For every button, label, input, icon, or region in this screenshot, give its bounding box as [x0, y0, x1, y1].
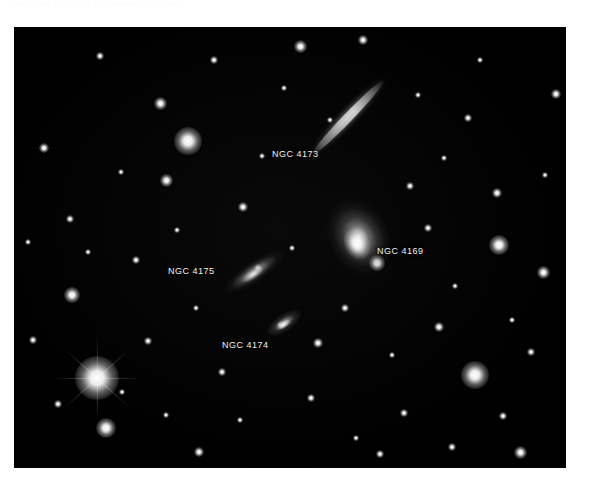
label-ngc-4173: NGC 4173: [272, 149, 319, 159]
label-ngc-4174: NGC 4174: [222, 340, 269, 350]
caption-text: NGC 4169 4173 4174 4175 Hickson 61 The B…: [15, 1, 182, 9]
astronomical-image-plate: NGC 4173 NGC 4169 NGC 4175 NGC 4174: [14, 27, 566, 468]
label-ngc-4169: NGC 4169: [377, 246, 424, 256]
caption-strip: NGC 4169 4173 4174 4175 Hickson 61 The B…: [0, 0, 590, 27]
label-ngc-4175: NGC 4175: [168, 266, 215, 276]
night-sky-background: [14, 27, 566, 468]
